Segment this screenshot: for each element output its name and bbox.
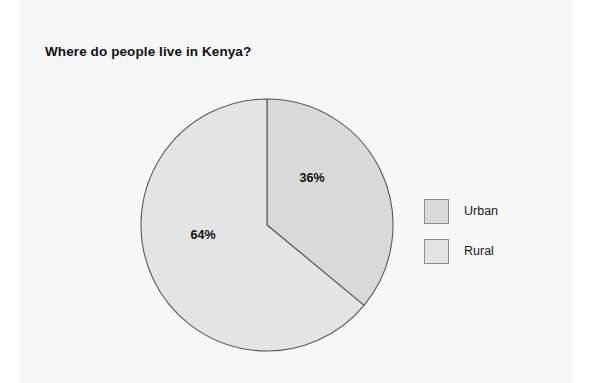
legend-label-rural: Rural	[464, 244, 494, 258]
pie-slice-group	[141, 99, 393, 351]
legend-label-urban: Urban	[464, 204, 498, 218]
pie-slice-value-rural: 64%	[190, 228, 215, 242]
legend-item-rural[interactable]: Rural	[424, 236, 544, 266]
pie-chart-svg: 36%64%	[140, 98, 394, 352]
legend-item-urban[interactable]: Urban	[424, 196, 544, 226]
pie-slice-value-urban: 36%	[299, 171, 324, 185]
legend-swatch-rural	[424, 239, 449, 264]
pie-chart: 36%64%	[140, 98, 394, 352]
chart-legend: Urban Rural	[424, 196, 544, 276]
legend-swatch-urban	[424, 199, 449, 224]
chart-screenshot: Where do people live in Kenya? 36%64% Ur…	[0, 0, 593, 383]
chart-title: Where do people live in Kenya?	[45, 44, 251, 59]
